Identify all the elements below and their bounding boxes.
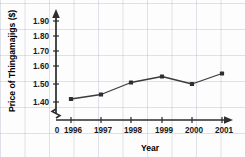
x-axis-title: Year bbox=[141, 143, 160, 153]
data-point-2000 bbox=[190, 82, 194, 86]
x-tick-label-1999: 1999 bbox=[155, 126, 174, 135]
x-tick-label-1998: 1998 bbox=[124, 126, 143, 135]
y-axis-title: Price of Thingamajigs ($) bbox=[7, 10, 17, 112]
data-point-1998 bbox=[129, 80, 133, 84]
data-point-1999 bbox=[160, 74, 164, 78]
y-tick-label-170: 1.70 bbox=[33, 47, 49, 56]
y-axis-arrow-icon bbox=[52, 9, 60, 18]
y-tick-label-180: 1.80 bbox=[33, 32, 49, 41]
x-tick-label-1996: 1996 bbox=[64, 126, 83, 135]
y-tick-label-140: 1.40 bbox=[33, 98, 49, 107]
x-origin-label: 0 bbox=[55, 126, 60, 135]
data-point-2001 bbox=[220, 71, 224, 75]
y-tick-label-160: 1.60 bbox=[33, 62, 49, 71]
data-point-1996 bbox=[69, 97, 73, 101]
y-tick-label-190: 1.90 bbox=[33, 17, 49, 26]
line-chart-plot: Price of Thingamajigs ($) 1.90 1.80 1.70… bbox=[0, 0, 245, 157]
x-tick-label-2001: 2001 bbox=[215, 126, 234, 135]
chart-figure: Price of Thingamajigs ($) 1.90 1.80 1.70… bbox=[0, 0, 245, 157]
y-tick-label-150: 1.50 bbox=[33, 80, 49, 89]
x-axis-arrow-icon bbox=[224, 116, 233, 124]
data-point-1997 bbox=[99, 92, 103, 96]
data-series-line bbox=[71, 74, 222, 100]
x-tick-label-2000: 2000 bbox=[185, 126, 204, 135]
x-tick-label-1997: 1997 bbox=[94, 126, 113, 135]
